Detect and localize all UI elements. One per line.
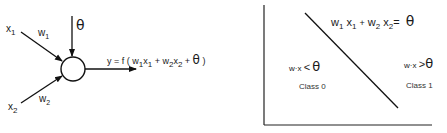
region-class0-label: Class 0	[299, 83, 326, 91]
region-class1-condition: w·x >θ	[404, 57, 433, 70]
input1-label: x1	[6, 24, 15, 34]
output-formula: y = f ( w1x1 + w2x2 + θ )	[107, 54, 205, 66]
neuron-node	[61, 57, 85, 81]
weight1-label: w1	[38, 28, 49, 38]
region-class1-label: Class 1	[406, 82, 433, 90]
threshold-label: θ	[76, 18, 85, 32]
boundary-equation: w1 x1 + w2 x2= θ	[331, 14, 414, 28]
region-class0-condition: w·x < θ	[289, 60, 320, 73]
input2-label: x2	[8, 102, 17, 112]
weight2-label: w2	[39, 94, 50, 104]
